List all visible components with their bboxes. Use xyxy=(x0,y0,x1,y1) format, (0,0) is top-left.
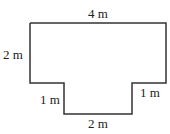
label-bottom: 2 m xyxy=(88,117,108,130)
label-left: 2 m xyxy=(3,48,23,61)
label-right-step: 1 m xyxy=(140,86,160,99)
shape-outline xyxy=(0,0,170,134)
label-left-step: 1 m xyxy=(40,93,60,106)
label-top: 4 m xyxy=(88,7,108,20)
